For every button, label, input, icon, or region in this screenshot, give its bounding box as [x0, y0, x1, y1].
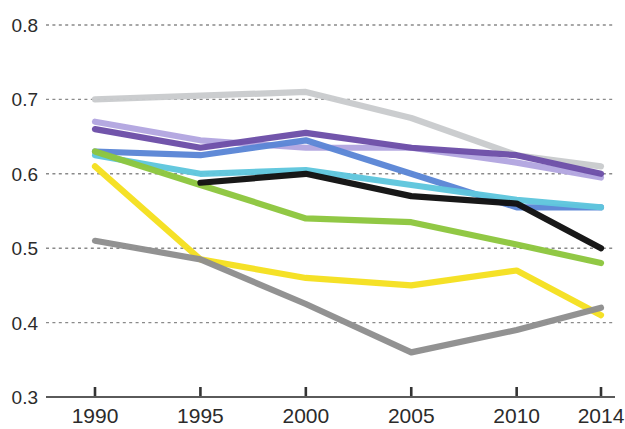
series-line-yellow-series [95, 166, 601, 315]
chart-canvas: 0.30.40.50.60.70.8 199019952000200520102… [0, 0, 625, 429]
data-series-group [95, 92, 601, 352]
x-tick-label: 2000 [282, 404, 329, 427]
line-chart: 0.30.40.50.60.70.8 199019952000200520102… [0, 0, 625, 429]
y-tick-label: 0.3 [12, 387, 38, 408]
x-tick-label: 2005 [388, 404, 435, 427]
y-tick-label: 0.4 [12, 313, 39, 334]
x-axis-tick-marks [95, 387, 601, 396]
series-line-dark-gray-series [95, 241, 601, 353]
y-tick-label: 0.5 [12, 238, 38, 259]
x-tick-label: 1995 [177, 404, 224, 427]
y-tick-label: 0.8 [12, 15, 38, 36]
x-axis-tick-labels: 199019952000200520102014 [72, 404, 625, 427]
x-tick-label: 2014 [578, 404, 625, 427]
y-axis-tick-labels: 0.30.40.50.60.70.8 [12, 15, 39, 408]
x-tick-label: 2010 [493, 404, 540, 427]
x-tick-label: 1990 [72, 404, 119, 427]
y-tick-label: 0.7 [12, 89, 38, 110]
y-tick-label: 0.6 [12, 164, 38, 185]
